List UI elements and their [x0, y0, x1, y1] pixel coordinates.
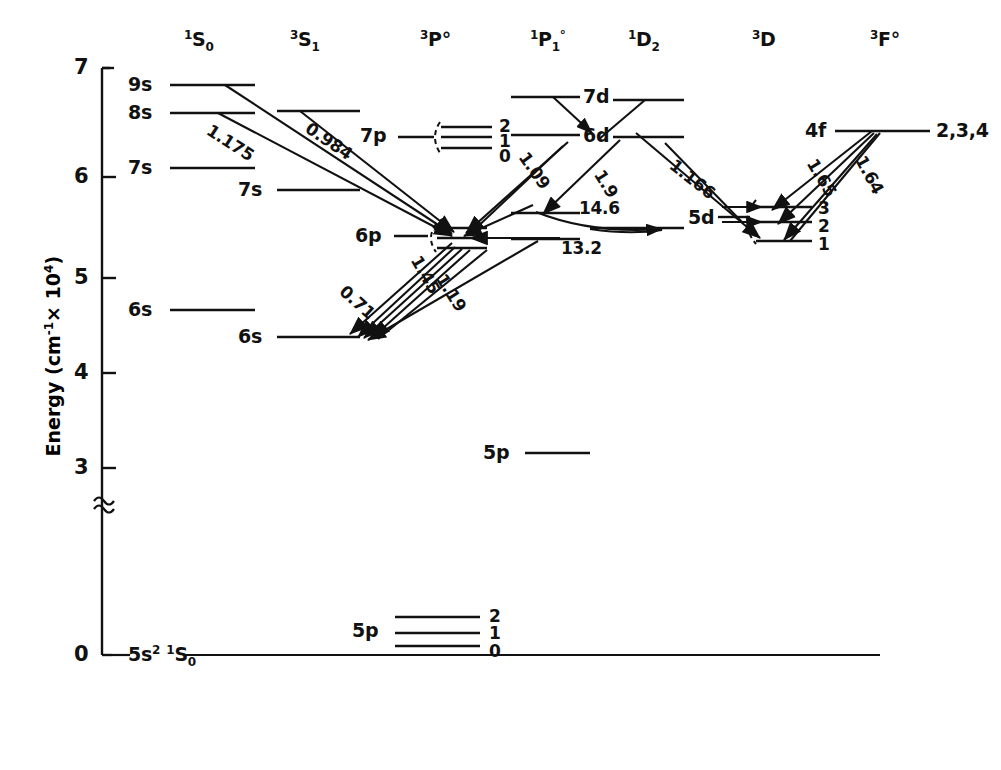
column-header-3D: 3D [752, 28, 776, 50]
j-label-7p-0: 0 [499, 146, 511, 166]
column-header-3Fo: 3F° [870, 28, 900, 50]
levels-1Po1 [511, 97, 590, 453]
level-label-7s-1S0: 7s [128, 156, 152, 178]
levels-3Po-7p [398, 127, 492, 148]
level-label-7d: 7d [583, 85, 609, 107]
ground-state-label: 5s2 1S0 [128, 643, 196, 669]
7p-bracket [435, 122, 440, 153]
level-label-6s-1S0: 6s [128, 298, 152, 320]
j-label-5d-3D-1: 1 [818, 234, 830, 254]
energy-level-diagram: Energy (cm-1× 104) 7 6 5 4 3 0 1S0 3S1 3… [0, 0, 1001, 770]
column-header-3Po: 3P° [420, 28, 451, 50]
column-header-1D2: 1D2 [628, 28, 660, 54]
transition-label-13.2: 13.2 [561, 238, 602, 258]
level-label-6p-3Po: 6p [355, 224, 381, 246]
column-header-1S0: 1S0 [184, 28, 214, 54]
transition-1.09 [464, 142, 568, 236]
level-label-7p-3Po: 7p [360, 124, 386, 146]
level-label-4f-3Fo: 4f [805, 119, 826, 141]
transition-8s-6p [218, 113, 452, 236]
y-tick-7: 7 [74, 55, 88, 79]
j-label-5p-3Po-1: 1 [489, 623, 501, 643]
y-tick-4: 4 [74, 360, 88, 384]
column-header-3S1: 3S1 [290, 28, 320, 54]
column-header-1Po1: 1P1° [530, 28, 565, 54]
axis-break [94, 498, 114, 513]
level-label-8s-1S0: 8s [128, 101, 152, 123]
y-tick-5: 5 [74, 265, 88, 289]
transition-label-14.6: 14.6 [579, 198, 620, 218]
level-label-9s-1S0: 9s [128, 73, 152, 95]
level-label-5d-3D: 5d [688, 206, 714, 228]
y-axis [102, 68, 116, 655]
y-tick-3: 3 [74, 455, 88, 479]
j-label-5d-3D-3: 3 [818, 198, 830, 218]
y-tick-0: 0 [74, 642, 88, 666]
j-label-5p-3Po-0: 0 [489, 641, 501, 661]
y-tick-6: 6 [74, 164, 88, 188]
level-label-5p-3Po: 5p [352, 619, 378, 641]
level-label-5p-1Po1: 5p [483, 441, 509, 463]
level-label-6d: 6d [583, 124, 609, 146]
j-label-5d-3D-2: 2 [818, 216, 830, 236]
y-axis-title: Energy (cm-1× 104) [42, 231, 64, 481]
j-label-4f-3Fo: 2,3,4 [936, 119, 989, 141]
arrows-into-3D [722, 207, 762, 222]
levels-3Po-5p [395, 617, 480, 646]
level-label-6s-3S1: 6s [238, 325, 262, 347]
level-label-7s-3S1: 7s [238, 178, 262, 200]
